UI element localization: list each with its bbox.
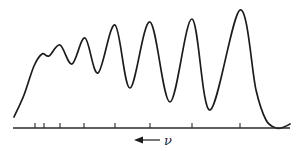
frequency-arrow-icon	[134, 137, 160, 144]
x-axis-ticks	[35, 123, 240, 128]
spectrum-curve	[14, 10, 290, 129]
spectrum-chart	[0, 0, 304, 151]
frequency-axis-label: ν	[164, 134, 172, 147]
